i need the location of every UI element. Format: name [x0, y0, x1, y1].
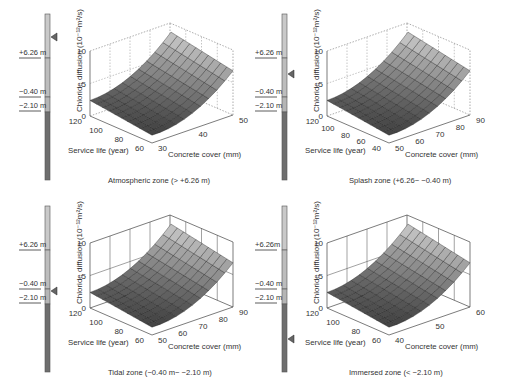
panel-caption: Tidal zone (−0.40 m− −2.10 m) [108, 368, 212, 377]
y-tick-label: 50 [436, 322, 445, 331]
zone-marker-icon [288, 335, 294, 343]
panel-caption: Immersed zone (< −2.10 m) [349, 368, 443, 377]
surface [327, 32, 470, 135]
y-tick-label: 70 [199, 322, 208, 331]
y-tick-label: 50 [158, 336, 167, 345]
gauge-label: +6.26 m [19, 48, 46, 57]
x-tick-label: 60 [357, 137, 366, 146]
surface [90, 32, 233, 135]
y-tick-label: 90 [239, 308, 248, 317]
x-tick-label: 40 [372, 144, 381, 153]
x-tick-label: 100 [321, 124, 335, 133]
z-axis-label: Chloride diffusion (10⁻¹²m²/s) [75, 201, 84, 304]
x-tick-label: 100 [89, 126, 103, 135]
y-tick-label: 30 [158, 144, 167, 153]
x-tick-label: 80 [341, 131, 350, 140]
z-axis-label: Chloride diffusion (10⁻¹²m²/s) [312, 9, 321, 112]
x-tick-label: 120 [306, 117, 320, 126]
x-axis-label: Service life (year) [305, 146, 366, 155]
y-tick-label: 90 [476, 116, 485, 125]
z-tick-label: 0 [82, 112, 87, 121]
zone-marker-icon [51, 33, 57, 41]
y-tick-label: 50 [395, 144, 404, 153]
zone-marker-icon [51, 287, 57, 295]
y-axis-label: Concrete cover (mm) [168, 342, 242, 351]
z-tick-label: 0 [82, 304, 87, 313]
z-tick-label: 0 [319, 112, 324, 121]
x-axis-label: Service life (year) [305, 338, 366, 347]
gauge-label: +6.26 m [255, 48, 282, 57]
gauge-label: +6.26m [255, 240, 280, 249]
x-tick-label: 120 [69, 309, 83, 318]
gauge-label: −0.40 m [19, 279, 46, 288]
gauge-label: +6.26 m [19, 240, 46, 249]
x-axis-label: Service life (year) [68, 146, 129, 155]
panel-tidal: +6.26 m−0.40 m−2.10 m0510120100806050607… [0, 192, 253, 384]
gauge-label: −2.10 m [19, 101, 46, 110]
x-tick-label: 80 [351, 327, 360, 336]
y-tick-label: 60 [178, 329, 187, 338]
x-tick-label: 80 [114, 135, 123, 144]
x-tick-label: 120 [69, 117, 83, 126]
panel-caption: Atmospheric zone (> +6.26 m) [108, 176, 211, 185]
y-axis-label: Concrete cover (mm) [405, 150, 479, 159]
gauge-label: −2.10 m [255, 293, 282, 302]
x-tick-label: 60 [135, 336, 144, 345]
z-axis-label: Chloride diffusion (10⁻¹²m²/s) [75, 9, 84, 112]
depth-gauge: +6.26 m−0.40 m−2.10 m [19, 14, 57, 180]
y-tick-label: 40 [199, 130, 208, 139]
y-tick-label: 80 [456, 123, 465, 132]
z-axis-label: Chloride diffusion (10⁻¹²m²/s) [312, 201, 321, 304]
depth-gauge: +6.26m−0.40 m−2.10 m [255, 206, 294, 372]
y-tick-label: 40 [395, 336, 404, 345]
depth-gauge: +6.26 m−0.40 m−2.10 m [255, 14, 294, 180]
panel-atmospheric: +6.26 m−0.40 m−2.10 m0510120100806030405… [0, 0, 253, 192]
y-tick-label: 50 [239, 116, 248, 125]
x-tick-label: 100 [89, 318, 103, 327]
gauge-label: −2.10 m [19, 293, 46, 302]
x-tick-label: 60 [135, 144, 144, 153]
panel-caption: Splash zone (+6.26− −0.40 m) [349, 176, 452, 185]
gauge-label: −0.40 m [19, 87, 46, 96]
y-tick-label: 60 [415, 137, 424, 146]
x-tick-label: 60 [372, 336, 381, 345]
x-axis-label: Service life (year) [68, 338, 129, 347]
y-tick-label: 60 [476, 308, 485, 317]
y-tick-label: 80 [219, 315, 228, 324]
gauge-label: −0.40 m [255, 87, 282, 96]
y-axis-label: Concrete cover (mm) [405, 342, 479, 351]
zone-marker-icon [288, 70, 294, 78]
z-tick-label: 0 [319, 304, 324, 313]
surface [327, 224, 470, 327]
x-tick-label: 80 [114, 327, 123, 336]
panel-splash: +6.26 m−0.40 m−2.10 m0510120100806040506… [253, 0, 506, 192]
gauge-label: −0.40 m [255, 279, 282, 288]
y-tick-label: 70 [436, 130, 445, 139]
depth-gauge: +6.26 m−0.40 m−2.10 m [19, 206, 57, 372]
gauge-label: −2.10 m [255, 101, 282, 110]
panel-immersed: +6.26m−0.40 m−2.10 m05101201008060405060… [253, 192, 506, 384]
y-axis-label: Concrete cover (mm) [168, 150, 242, 159]
surface [90, 224, 233, 327]
x-tick-label: 120 [306, 309, 320, 318]
x-tick-label: 100 [326, 318, 340, 327]
